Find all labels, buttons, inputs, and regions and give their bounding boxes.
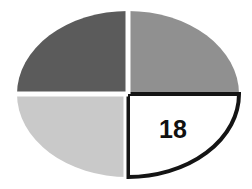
quadrant-pie-chart: 18: [0, 0, 252, 189]
figure-root: 18: [0, 0, 252, 189]
slice-value-label: 18: [159, 115, 187, 143]
